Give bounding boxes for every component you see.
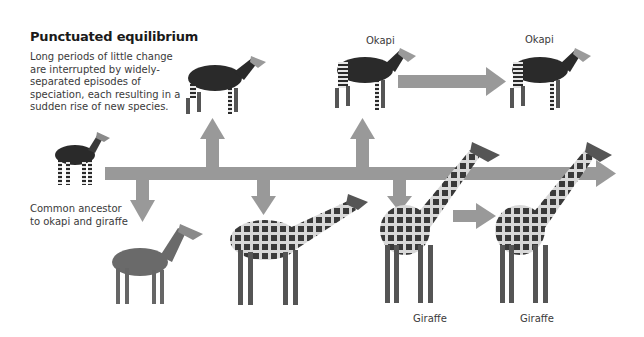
- branch-arrow-down-1: [130, 179, 155, 222]
- branch-arrow-down-2: [251, 179, 276, 215]
- okapi-animal-1: [186, 56, 266, 114]
- diagram-canvas: [0, 0, 644, 337]
- branch-arrow-up-2: [350, 118, 375, 168]
- intermediate-giraffe-animal: [230, 194, 368, 305]
- branch-arrow-up-1: [200, 118, 225, 168]
- okapi-continuation-arrow: [398, 67, 506, 96]
- giraffe-animal-2: [495, 142, 612, 303]
- giraffe-continuation-arrow: [453, 203, 496, 229]
- common-ancestor-animal: [55, 132, 110, 185]
- early-giraffid-animal: [112, 224, 203, 304]
- okapi-animal-3: [510, 48, 591, 110]
